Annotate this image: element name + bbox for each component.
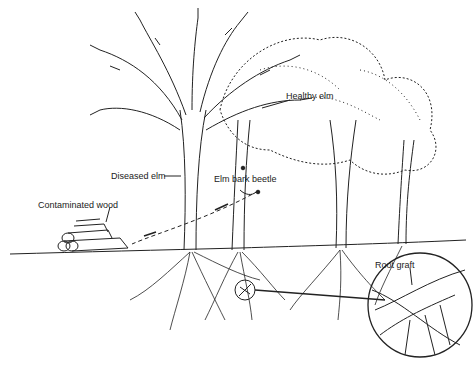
illustration <box>0 0 476 370</box>
magnify-connector <box>255 290 385 300</box>
label-root-graft: Root graft <box>375 261 415 270</box>
label-healthy-elm: Healthy elm <box>286 92 334 101</box>
contaminated-wood-pile <box>0 0 128 251</box>
elm-disease-diagram: Contaminated wood Diseased elm Elm bark … <box>0 0 476 370</box>
beetle-icon <box>256 190 260 194</box>
label-diseased-elm: Diseased elm <box>111 172 166 181</box>
label-elm-bark-beetle: Elm bark beetle <box>214 175 277 184</box>
diseased-elm-tree <box>90 8 312 250</box>
label-contaminated-wood: Contaminated wood <box>38 201 118 210</box>
roots <box>130 246 402 330</box>
healthy-elm-trees <box>220 37 436 250</box>
